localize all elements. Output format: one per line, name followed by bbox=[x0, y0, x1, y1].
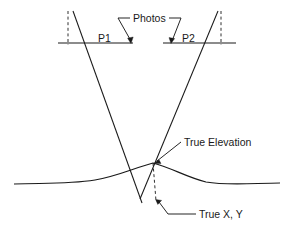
true-xy-leader bbox=[159, 202, 196, 214]
true-elevation-label: True Elevation bbox=[184, 136, 251, 148]
true-xy-label: True X, Y bbox=[199, 208, 243, 220]
stereo-photogrammetry-diagram: Photos P1 P2 True Elevation True X, Y bbox=[0, 0, 292, 234]
diagram-canvas: Photos P1 P2 True Elevation True X, Y bbox=[0, 0, 292, 234]
photo-left-label: P1 bbox=[98, 32, 111, 44]
photo-right-label: P2 bbox=[182, 32, 195, 44]
photos-leader-right bbox=[169, 18, 181, 41]
photos-leader-left bbox=[118, 18, 131, 41]
photos-label: Photos bbox=[133, 12, 166, 24]
true-xy-dashed-line bbox=[153, 163, 156, 201]
sight-ray-right bbox=[140, 11, 218, 199]
true-elevation-leader bbox=[157, 142, 181, 161]
